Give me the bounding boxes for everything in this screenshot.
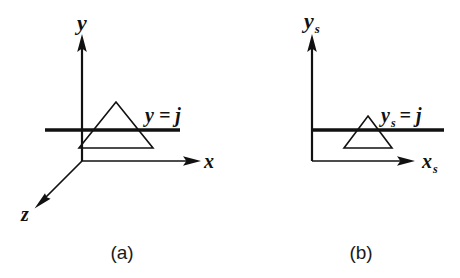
panel-b-caption: (b) [349,242,372,263]
panel-b-x-axis-label-base: x [421,150,432,172]
panel-b: ys xs ys= j (b) [301,8,444,263]
panel-b-x-axis-label-subscript: s [432,162,438,176]
panel-a: y x z y = j (a) [20,10,214,263]
panel-b-scanline-label-base: y [379,104,390,127]
panel-a-triangle [79,102,153,148]
panel-b-y-axis-label-base: y [301,8,314,33]
panel-a-x-axis-label: x [203,150,214,172]
panel-b-y-axis-label-subscript: s [314,21,320,36]
figure-root: y x z y = j (a) y [0,0,460,278]
panel-b-scanline-label: ys= j [379,104,422,130]
panel-a-caption: (a) [110,242,133,263]
panel-b-scanline-label-rest: = j [400,104,422,127]
panel-b-scanline-label-subscript: s [390,116,396,130]
panel-a-z-axis-label: z [20,203,29,225]
panel-a-scanline-label: y = j [143,104,181,127]
panel-a-z-axis-line [44,161,82,199]
figure-canvas: y x z y = j (a) y [0,0,460,278]
panel-b-y-axis-label: ys [301,8,320,36]
panel-b-x-axis-label: xs [421,150,438,176]
panel-a-y-axis-label: y [74,10,87,35]
